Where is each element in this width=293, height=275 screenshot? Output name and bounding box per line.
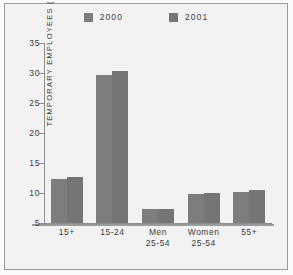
legend-label-2000: 2000 [100, 13, 123, 22]
legend-item-2000: 2000 [84, 13, 123, 22]
bar-2000-Women-25-54 [188, 194, 204, 223]
plot-area: 5101520253035 15+15-24Men 25-54Women 25-… [44, 43, 272, 223]
y-tick-label: 30 [29, 68, 40, 78]
bar-2000-Men-25-54 [142, 209, 158, 223]
bar-group [90, 43, 136, 223]
bar-group [135, 43, 181, 223]
bar-group [181, 43, 227, 223]
y-tick-label: 20 [29, 128, 40, 138]
x-tick-label: 55+ [226, 227, 272, 238]
y-tick-label: 5 [35, 218, 40, 228]
bar-2000-55+ [233, 192, 249, 223]
bar-2001-55+ [249, 190, 265, 223]
legend-swatch-2001-icon [169, 13, 178, 22]
x-tick-label: 15-24 [90, 227, 136, 238]
legend-swatch-2000-icon [84, 13, 93, 22]
bar-group [44, 43, 90, 223]
x-tick-label: Women 25-54 [181, 227, 227, 249]
bar-2001-Men-25-54 [158, 209, 174, 223]
bar-2001-Women-25-54 [204, 193, 220, 223]
y-tick-label: 10 [29, 188, 40, 198]
y-tick-label: 25 [29, 98, 40, 108]
bar-2000-15+ [51, 179, 67, 223]
x-tick-label: 15+ [44, 227, 90, 238]
bar-group [226, 43, 272, 223]
legend-item-2001: 2001 [169, 13, 208, 22]
y-tick-label: 15 [29, 158, 40, 168]
bar-2001-15-24 [112, 71, 128, 223]
x-tick-label: Men 25-54 [135, 227, 181, 249]
bar-2000-15-24 [96, 75, 112, 223]
baseline-rule [32, 224, 274, 226]
bar-2001-15+ [67, 177, 83, 223]
legend-label-2001: 2001 [185, 13, 208, 22]
y-tick-label: 35 [29, 38, 40, 48]
plot-area-wrapper: 2000 2001 TEMPORARY EMPLOYEES (%) 510152… [4, 3, 288, 270]
chart-figure: 2000 2001 TEMPORARY EMPLOYEES (%) 510152… [0, 0, 293, 275]
